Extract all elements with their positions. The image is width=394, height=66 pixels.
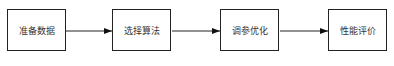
node-label: 性能评价 <box>340 24 376 37</box>
node-prepare-data: 准备数据 <box>7 9 66 51</box>
node-evaluate-performance: 性能评价 <box>328 9 387 51</box>
node-label: 调参优化 <box>232 24 268 37</box>
node-label: 准备数据 <box>19 24 55 37</box>
node-tune-parameters: 调参优化 <box>220 9 279 51</box>
node-select-algorithm: 选择算法 <box>112 9 171 51</box>
node-label: 选择算法 <box>124 24 160 37</box>
